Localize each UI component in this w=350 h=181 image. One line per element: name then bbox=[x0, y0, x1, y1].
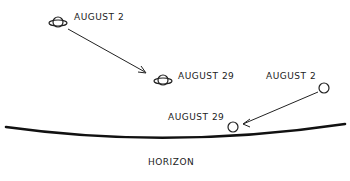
planet-end-label: AUGUST 29 bbox=[168, 112, 224, 122]
horizon-line bbox=[6, 124, 345, 138]
diagram-canvas bbox=[0, 0, 350, 181]
planet-icon-aug2 bbox=[319, 83, 329, 93]
saturn-icon-aug2 bbox=[49, 17, 67, 27]
saturn-start-label: AUGUST 2 bbox=[74, 12, 124, 22]
planet-icon-aug29 bbox=[228, 122, 238, 132]
planet-start-label: AUGUST 2 bbox=[266, 71, 316, 81]
horizon-label: HORIZON bbox=[148, 157, 194, 167]
saturn-end-label: AUGUST 29 bbox=[178, 71, 234, 81]
saturn-icon-aug29 bbox=[154, 75, 172, 85]
saturn-motion-arrow bbox=[68, 29, 146, 73]
planet-motion-arrow bbox=[243, 92, 318, 127]
